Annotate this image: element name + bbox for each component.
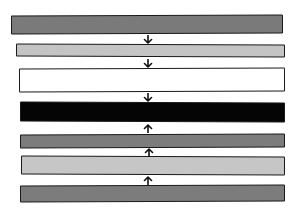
layer-bar-4-black	[20, 102, 285, 123]
arrow-up-icon	[144, 148, 154, 157]
arrow-down-icon	[143, 59, 153, 68]
arrow-up-icon	[143, 176, 153, 185]
layer-bar-7-medium-gray	[20, 184, 285, 202]
layer-bar-3-white	[19, 67, 285, 92]
layer-bar-6-light-gray	[21, 156, 285, 176]
layer-bar-1-medium-gray	[11, 14, 283, 34]
arrow-down-icon	[143, 93, 153, 102]
arrow-up-icon	[143, 124, 153, 133]
layer-bar-5-medium-gray	[20, 133, 285, 148]
layer-bar-2-light-gray	[16, 44, 285, 58]
arrow-down-icon	[143, 35, 153, 44]
